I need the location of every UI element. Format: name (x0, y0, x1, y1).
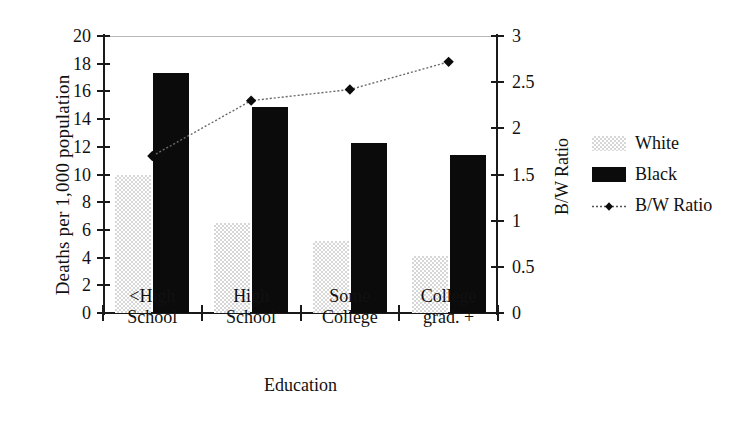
y-axis-right-tick (491, 35, 504, 37)
bar-black (252, 107, 288, 313)
y-axis-left-tick (97, 229, 110, 231)
y-axis-left-tick-label: 14 (73, 110, 91, 128)
y-axis-right-tick (491, 174, 504, 176)
y-axis-right-tick (491, 266, 504, 268)
y-axis-left-tick (97, 174, 110, 176)
legend-swatch-black-icon (592, 167, 626, 182)
chart-legend: White Black B/W Ratio (592, 128, 712, 221)
y-axis-left-tick-label: 12 (73, 138, 91, 156)
y-axis-left-title: Deaths per 1,000 population (52, 40, 74, 330)
legend-label-black: Black (635, 164, 677, 185)
y-axis-right-tick-label: 2 (512, 119, 521, 137)
y-axis-left-tick-label: 10 (73, 166, 91, 184)
legend-line-diamond-icon (592, 198, 626, 213)
y-axis-left-tick-label: 6 (82, 221, 91, 239)
y-axis-right-tick-label: 1.5 (512, 166, 535, 184)
y-axis-left-tick-label: 2 (82, 276, 91, 294)
ratio-line-path (152, 62, 448, 156)
y-axis-right-tick-label: 1 (512, 212, 521, 230)
y-axis-left-tick-label: 16 (73, 82, 91, 100)
y-axis-left-tick-label: 8 (82, 193, 91, 211)
plot-area: 02468101214161820 00.511.522.53 (103, 36, 498, 313)
y-axis-left-tick (97, 257, 110, 259)
legend-item-black: Black (592, 159, 712, 190)
legend-label-white: White (635, 133, 679, 154)
x-axis-category-label: Collegegrad. + (390, 286, 508, 328)
y-axis-left-tick (97, 146, 110, 148)
bar-black (153, 73, 189, 313)
y-axis-right-tick (491, 127, 504, 129)
y-axis-left-tick (97, 201, 110, 203)
ratio-marker-diamond-icon (246, 95, 256, 105)
x-axis-title: Education (103, 375, 498, 396)
y-axis-left-tick-label: 18 (73, 55, 91, 73)
y-axis-right-title: B/W Ratio (552, 102, 573, 252)
x-axis-category-line: College (390, 286, 508, 307)
y-axis-left-tick (97, 35, 110, 37)
legend-swatch-white-icon (592, 136, 626, 151)
chart-figure: Deaths per 1,000 population B/W Ratio 02… (0, 0, 748, 428)
y-axis-right-tick-label: 0 (512, 304, 521, 322)
y-axis-left-tick-label: 4 (82, 249, 91, 267)
y-axis-right-tick-label: 2.5 (512, 73, 535, 91)
y-axis-right-tick-label: 3 (512, 27, 521, 45)
y-axis-right-tick-label: 0.5 (512, 258, 535, 276)
y-axis-right-tick (491, 81, 504, 83)
legend-item-white: White (592, 128, 712, 159)
legend-item-ratio: B/W Ratio (592, 190, 712, 221)
legend-label-ratio: B/W Ratio (635, 195, 712, 216)
x-axis-category-line: grad. + (390, 307, 508, 328)
y-axis-left-tick (97, 63, 110, 65)
ratio-marker-diamond-icon (443, 57, 453, 67)
y-axis-left-tick (97, 118, 110, 120)
y-axis-left-tick-label: 0 (82, 304, 91, 322)
y-axis-right-tick (491, 220, 504, 222)
y-axis-left-tick-label: 20 (73, 27, 91, 45)
ratio-marker-diamond-icon (345, 84, 355, 94)
y-axis-left-tick (97, 90, 110, 92)
gridline-top (103, 36, 498, 37)
